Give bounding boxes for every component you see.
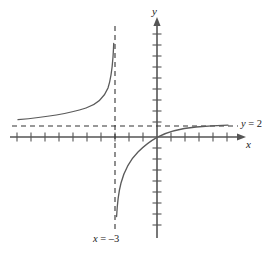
horizontal-asymptote-label: y = 2 <box>241 119 262 130</box>
y-axis-label: y <box>152 6 157 17</box>
vertical-asymptote-label-value: = –3 <box>98 233 120 244</box>
graph-figure: y x y = 2 x = –3 <box>0 0 276 256</box>
curve-right-branch <box>117 125 228 216</box>
coordinate-plane-svg <box>0 0 276 256</box>
vertical-asymptote-label: x = –3 <box>93 234 119 245</box>
horizontal-asymptote-label-value: = 2 <box>246 118 262 129</box>
x-axis-label: x <box>246 139 251 150</box>
y-axis <box>153 17 160 238</box>
curve-left-branch <box>18 44 114 120</box>
